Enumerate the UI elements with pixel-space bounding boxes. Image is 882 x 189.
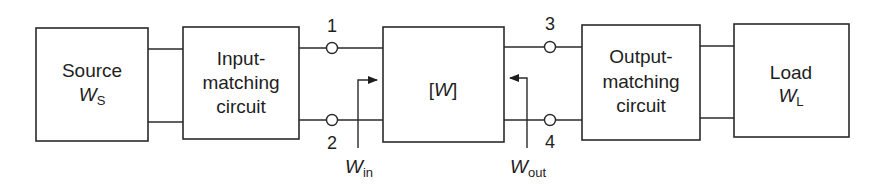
port-1-label: 1 (327, 16, 337, 36)
w-out-subscript: out (528, 165, 546, 180)
port-1 (327, 43, 338, 54)
two-port-network-diagram: 1 2 3 4 Source WS Input- matching circui… (0, 0, 882, 189)
output-matching-line-1: Output- (609, 46, 672, 67)
w-out-arrow (510, 78, 527, 148)
input-matching-line-2: matching (202, 72, 279, 93)
port-3-label: 3 (545, 14, 555, 34)
port-3 (545, 42, 556, 53)
load-symbol-subscript: L (796, 94, 803, 109)
load-title: Load (770, 62, 812, 83)
output-matching-line-3: circuit (616, 95, 666, 116)
w-in-label: Win (345, 156, 373, 180)
input-matching-line-3: circuit (216, 96, 266, 117)
output-matching-line-2: matching (602, 71, 679, 92)
w-in-arrow (358, 80, 377, 148)
source-title: Source (62, 60, 122, 81)
network-bracket-close: ] (452, 79, 457, 100)
port-2-label: 2 (327, 133, 337, 153)
port-4-label: 4 (545, 132, 555, 152)
source-symbol-subscript: S (97, 93, 106, 108)
input-matching-line-1: Input- (217, 48, 266, 69)
w-out-label: Wout (510, 156, 546, 180)
w-in-subscript: in (363, 165, 373, 180)
network-label: [W] (429, 79, 458, 100)
port-2 (327, 115, 338, 126)
port-4 (545, 115, 556, 126)
